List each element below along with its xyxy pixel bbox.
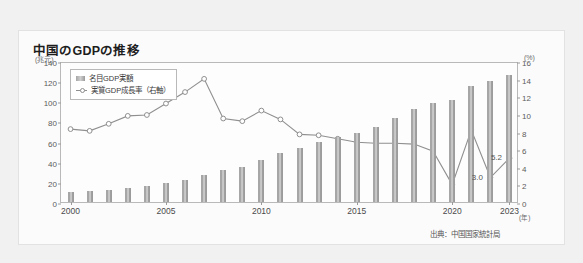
x-axis-tick-label: 2000 [61,206,80,216]
growth-rate-marker [144,113,149,118]
gdp-bar [106,190,112,202]
gdp-bar [277,153,283,202]
x-axis-tick-mark [452,202,453,205]
gdp-bar [487,81,493,202]
gdp-bar [449,100,455,202]
y2-axis-tick-mark [517,133,520,134]
y2-axis-tick-label: 6 [522,147,526,156]
legend-label-bar: 名目GDP実額 [89,73,133,85]
legend-item-bar: 名目GDP実額 [76,73,170,85]
gdp-bar [430,103,436,202]
y2-axis-tick-label: 4 [522,164,526,173]
line-marker-icon [76,87,87,93]
gdp-bar [468,86,474,202]
growth-rate-marker [87,128,92,133]
y2-axis-tick-label: 16 [522,59,531,68]
gdp-bar [411,109,417,202]
y-axis-tick-mark [58,83,61,84]
x-axis-tick-mark [166,202,167,205]
y2-axis-tick-label: 0 [522,200,526,209]
gdp-bar [354,133,360,202]
y2-axis-tick-label: 14 [522,76,531,85]
y-axis-tick-label: 80 [48,119,57,128]
y-axis-tick-mark [58,163,61,164]
x-axis-tick-label: 2020 [443,206,462,216]
source-note: 出典：中国国家統計局 [430,228,500,239]
y-axis-tick-mark [58,63,61,64]
gdp-bar [220,170,226,202]
data-point-label: 3.0 [472,172,483,181]
y-axis-tick-mark [58,143,61,144]
bar-swatch-icon [76,76,85,81]
plot-area: 名目GDP実額 実質GDP成長率（右軸） 0204060801001201400… [60,62,518,203]
gdp-bar [373,127,379,202]
growth-rate-marker [183,90,188,95]
gdp-bar [392,118,398,202]
y-axis-tick-mark [58,123,61,124]
y2-axis-tick-label: 12 [522,94,531,103]
growth-rate-marker [278,117,283,122]
x-axis-tick-label: 2023 [500,206,519,216]
y-axis-tick-label: 100 [44,99,57,108]
x-axis-tick-label: 2005 [156,206,175,216]
growth-rate-marker [202,76,207,81]
y2-axis-tick-mark [517,151,520,152]
growth-rate-marker [221,116,226,121]
gdp-bar [144,186,150,202]
y-axis-tick-label: 60 [48,139,57,148]
plot-inner: 名目GDP実額 実質GDP成長率（右軸） 0204060801001201400… [61,63,517,202]
gdp-bar [163,183,169,202]
y-axis-tick-label: 0 [53,200,57,209]
y2-axis-tick-mark [517,204,520,205]
gdp-bar [125,188,131,202]
growth-rate-marker [106,121,111,126]
growth-rate-marker [240,119,245,124]
y2-axis-tick-mark [517,168,520,169]
growth-rate-marker [259,108,264,113]
gdp-bar [335,137,341,202]
growth-rate-marker [68,127,73,132]
y2-axis-tick-label: 10 [522,111,531,120]
x-axis-unit: (年) [519,212,530,222]
growth-rate-marker [297,132,302,137]
gdp-bar [316,142,322,202]
y2-axis-tick-label: 2 [522,182,526,191]
gdp-bar [506,75,512,202]
y-axis-tick-label: 140 [44,59,57,68]
legend-label-line: 実質GDP成長率（右軸） [91,85,170,97]
y2-axis-tick-label: 8 [522,129,526,138]
screenshot-root: 中国のGDPの推移 (兆元) (%) (年) 名目GDP実額 実質GDP成長率（… [0,0,583,263]
x-axis-tick-mark [261,202,262,205]
y-axis-tick-mark [58,183,61,184]
gdp-bar [258,160,264,202]
x-axis-tick-label: 2015 [347,206,366,216]
gdp-bar [87,191,93,202]
x-axis-tick-mark [357,202,358,205]
gdp-bar [201,175,207,202]
y-axis-tick-label: 120 [44,79,57,88]
y2-axis-tick-mark [517,115,520,116]
y2-axis-tick-mark [517,98,520,99]
x-axis-tick-label: 2010 [252,206,271,216]
growth-rate-marker [164,101,169,106]
growth-rate-marker [125,113,130,118]
gdp-bar [239,167,245,202]
gdp-bar [297,148,303,202]
x-axis-tick-mark [71,202,72,205]
gdp-bar [68,192,74,202]
legend-item-line: 実質GDP成長率（右軸） [76,85,170,97]
data-point-label: 5.2 [491,153,502,162]
y-axis-tick-mark [58,103,61,104]
y2-axis-tick-mark [517,186,520,187]
growth-rate-marker [316,133,321,138]
chart-legend: 名目GDP実額 実質GDP成長率（右軸） [70,69,177,100]
y2-axis-tick-mark [517,80,520,81]
y-axis-tick-label: 40 [48,159,57,168]
x-axis-tick-mark [509,202,510,205]
y2-axis-tick-mark [517,63,520,64]
y-axis-tick-label: 20 [48,179,57,188]
gdp-bar [182,180,188,202]
y-axis-tick-mark [58,204,61,205]
